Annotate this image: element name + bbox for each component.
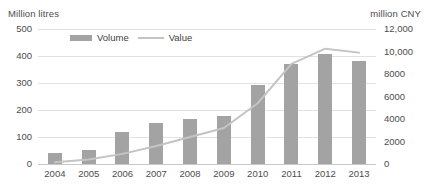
x-axis-ticks: 2004200520062007200820092010201120122013 bbox=[38, 168, 376, 188]
x-tick-label: 2008 bbox=[173, 168, 207, 188]
x-tick-label: 2012 bbox=[308, 168, 342, 188]
right-tick-label: 0 bbox=[384, 159, 389, 169]
value-line-path bbox=[55, 49, 359, 163]
right-tick-label: 4000 bbox=[384, 114, 405, 124]
right-tick-label: 10,000 bbox=[384, 47, 413, 57]
gridline bbox=[38, 164, 376, 165]
left-tick-label: 400 bbox=[16, 51, 32, 61]
x-tick-label: 2010 bbox=[241, 168, 275, 188]
x-tick-label: 2004 bbox=[38, 168, 72, 188]
left-tick-label: 100 bbox=[16, 132, 32, 142]
legend-label-value: Value bbox=[169, 32, 193, 43]
chart-container: Million litres million CNY 0100200300400… bbox=[0, 0, 425, 196]
chart-legend: Volume Value bbox=[70, 32, 192, 43]
plot-area: 0100200300400500 0200040006000800010,000… bbox=[38, 29, 376, 164]
left-tick-label: 300 bbox=[16, 78, 32, 88]
right-tick-label: 8000 bbox=[384, 69, 405, 79]
right-tick-label: 6000 bbox=[384, 92, 405, 102]
x-tick-label: 2013 bbox=[342, 168, 376, 188]
x-tick-label: 2005 bbox=[72, 168, 106, 188]
x-tick-label: 2009 bbox=[207, 168, 241, 188]
right-axis-title: million CNY bbox=[370, 8, 421, 19]
x-tick-label: 2007 bbox=[139, 168, 173, 188]
x-tick-label: 2011 bbox=[275, 168, 309, 188]
legend-item-volume: Volume bbox=[70, 32, 129, 43]
left-tick-label: 200 bbox=[16, 105, 32, 115]
legend-swatch-volume-icon bbox=[70, 35, 92, 41]
left-tick-label: 0 bbox=[27, 159, 32, 169]
x-tick-label: 2006 bbox=[106, 168, 140, 188]
legend-item-value: Value bbox=[138, 32, 193, 43]
right-tick-label: 12,000 bbox=[384, 24, 413, 34]
legend-swatch-value-icon bbox=[138, 37, 164, 39]
left-tick-label: 500 bbox=[16, 24, 32, 34]
legend-label-volume: Volume bbox=[97, 32, 129, 43]
line-series-value bbox=[38, 29, 376, 164]
left-axis-title: Million litres bbox=[8, 8, 59, 19]
right-tick-label: 2000 bbox=[384, 137, 405, 147]
